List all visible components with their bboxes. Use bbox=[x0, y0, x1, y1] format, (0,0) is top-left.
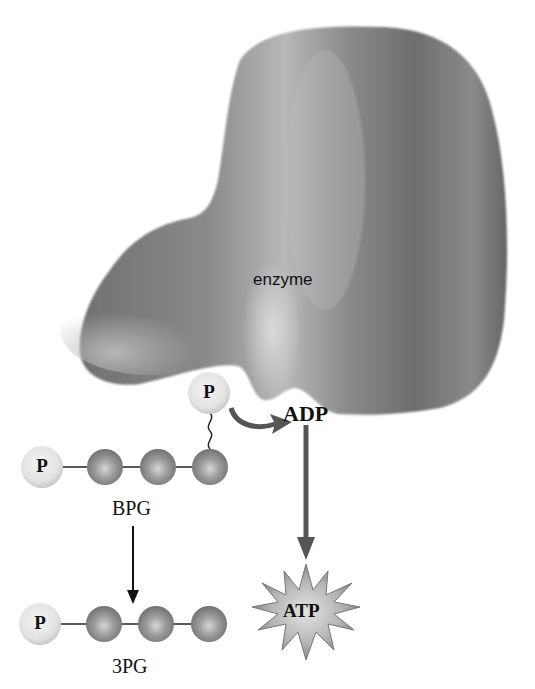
bpg-carbon-1 bbox=[87, 449, 123, 485]
3pg-carbon-3 bbox=[191, 606, 227, 642]
bpg-to-3pg-arrow bbox=[127, 526, 139, 604]
bpg-carbon-3 bbox=[192, 449, 228, 485]
diagram-canvas bbox=[0, 0, 535, 689]
bpg-label: BPG bbox=[112, 497, 151, 520]
bpg-carbon-2 bbox=[140, 449, 176, 485]
atp-label: ATP bbox=[283, 600, 320, 622]
enzyme-shape bbox=[60, 27, 507, 415]
adp-to-atp-arrow bbox=[297, 425, 315, 560]
bpg-phosphate-label: P bbox=[22, 455, 62, 477]
transfer-phosphate-label: P bbox=[189, 381, 229, 403]
3pg-phosphate-label: P bbox=[20, 612, 60, 634]
enzyme-label: enzyme bbox=[253, 270, 313, 290]
adp-label: ADP bbox=[283, 401, 328, 427]
3pg-carbon-2 bbox=[138, 606, 174, 642]
3pg-carbon-1 bbox=[86, 606, 122, 642]
3pg-label: 3PG bbox=[112, 655, 148, 678]
